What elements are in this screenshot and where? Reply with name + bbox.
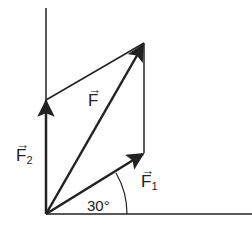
label-f2: → F2: [16, 147, 33, 166]
vector-diagram-svg: [0, 0, 252, 230]
angle-arc: [116, 173, 127, 214]
label-f1: → F1: [141, 173, 158, 192]
vector-arrow-icon: →: [88, 83, 101, 96]
label-f-resultant: → F: [88, 92, 98, 109]
vector-diagram: → F → F2 → F1 30°: [0, 0, 252, 230]
vector-f-resultant-arrow: [46, 45, 143, 214]
vector-arrow-icon: →: [16, 138, 29, 151]
vector-arrow-icon: →: [141, 164, 154, 177]
angle-label: 30°: [87, 198, 110, 213]
